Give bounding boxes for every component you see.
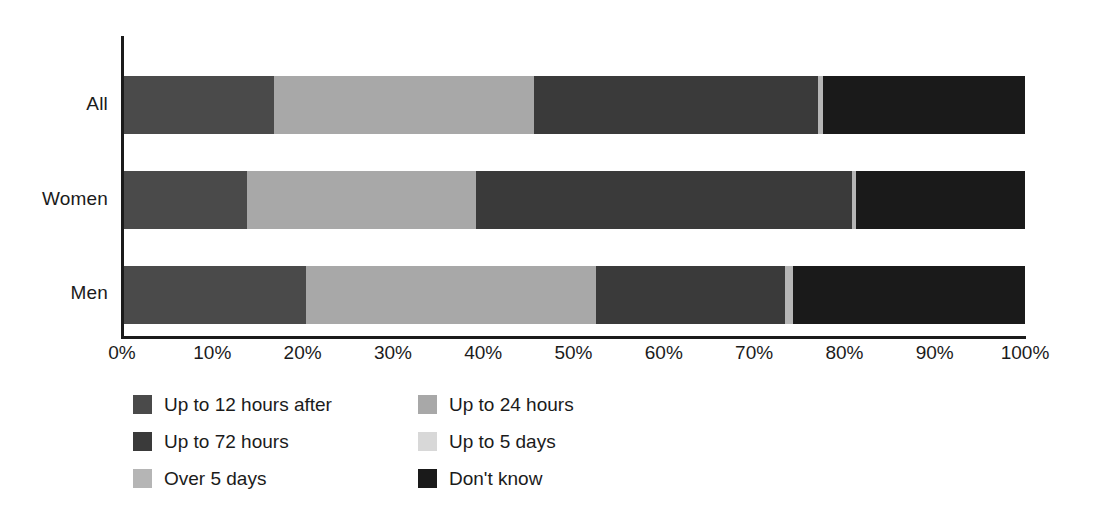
legend-swatch-icon (418, 395, 437, 414)
y-axis-label-all: All (0, 93, 108, 113)
category-label: Women (0, 188, 108, 210)
bar-segment (124, 76, 274, 134)
x-axis-tick-label: 100% (990, 342, 1060, 364)
legend-label: Over 5 days (164, 468, 266, 490)
bar-segment (785, 266, 792, 324)
x-axis-line (121, 336, 1026, 339)
legend-item[interactable]: Over 5 days (133, 468, 418, 490)
x-axis-tick-label: 70% (719, 342, 789, 364)
x-axis-tick-label: 90% (900, 342, 970, 364)
bar-segment (247, 171, 477, 229)
x-axis-tick-label: 40% (448, 342, 518, 364)
legend-swatch-icon (133, 469, 152, 488)
bar-segment (793, 266, 1025, 324)
y-axis-label-women: Women (0, 188, 108, 208)
legend-swatch-icon (418, 469, 437, 488)
bar-segment (856, 171, 1024, 229)
legend-label: Up to 5 days (449, 431, 556, 453)
legend-item[interactable]: Up to 24 hours (418, 394, 703, 416)
bar-segment (124, 171, 247, 229)
bar-all (124, 76, 1025, 134)
x-axis-tick-label: 50% (539, 342, 609, 364)
legend-item[interactable]: Up to 12 hours after (133, 394, 418, 416)
chart-root: All Women Men 0%10%20%30%40%50%60%70%80%… (0, 0, 1095, 515)
x-axis-tick-label: 10% (177, 342, 247, 364)
x-axis-tick-label: 0% (87, 342, 157, 364)
x-axis-tick-label: 30% (358, 342, 428, 364)
bar-segment (124, 266, 306, 324)
chart-legend: Up to 12 hours afterUp to 24 hoursUp to … (133, 386, 833, 497)
x-axis-tick-label: 80% (809, 342, 879, 364)
bar-segment (596, 266, 785, 324)
legend-swatch-icon (133, 432, 152, 451)
legend-item[interactable]: Don't know (418, 468, 703, 490)
bar-segment (534, 76, 818, 134)
bar-segment (823, 76, 1025, 134)
legend-swatch-icon (133, 395, 152, 414)
bar-men (124, 266, 1025, 324)
legend-item[interactable]: Up to 5 days (418, 431, 703, 453)
bar-segment (274, 76, 533, 134)
category-label: All (0, 93, 108, 115)
legend-swatch-icon (418, 432, 437, 451)
legend-label: Up to 24 hours (449, 394, 574, 416)
legend-item[interactable]: Up to 72 hours (133, 431, 418, 453)
bar-segment (476, 171, 852, 229)
category-label: Men (0, 282, 108, 304)
legend-label: Up to 12 hours after (164, 394, 332, 416)
legend-label: Don't know (449, 468, 542, 490)
x-axis-tick-label: 20% (268, 342, 338, 364)
bar-segment (306, 266, 596, 324)
y-axis-label-men: Men (0, 282, 108, 302)
x-axis-tick-label: 60% (629, 342, 699, 364)
legend-label: Up to 72 hours (164, 431, 289, 453)
bar-women (124, 171, 1025, 229)
plot-area: All Women Men 0%10%20%30%40%50%60%70%80%… (0, 0, 1095, 380)
